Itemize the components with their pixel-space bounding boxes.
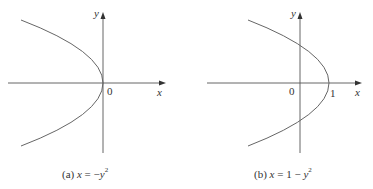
caption-a-exp: 2 [105, 166, 109, 174]
caption-b-exp: 2 [308, 166, 312, 174]
tick-label-one-b: 1 [330, 88, 336, 99]
x-axis-arrow-b [355, 81, 362, 86]
caption-a-prefix: (a) [62, 168, 74, 180]
figure-a [8, 12, 166, 153]
caption-b-mid: = 1 − [274, 168, 303, 180]
y-axis-label-b: y [291, 8, 296, 19]
x-axis-label-a: x [157, 87, 162, 98]
origin-label-b: 0 [289, 86, 295, 97]
y-axis-arrow-a [101, 12, 106, 19]
y-axis-label-a: y [94, 8, 99, 19]
x-axis-label-b: x [355, 87, 360, 98]
x-axis-arrow-a [159, 81, 166, 86]
figure-b [207, 12, 362, 153]
origin-label-a: 0 [107, 86, 113, 97]
caption-b-prefix: (b) [254, 168, 267, 180]
caption-a-mid: = − [82, 168, 100, 180]
caption-b: (b) x = 1 − y2 [254, 169, 312, 180]
caption-a: (a) x = −y2 [62, 169, 108, 180]
figure-canvas [0, 0, 373, 189]
y-axis-arrow-b [298, 12, 303, 19]
caption-a-var: y [100, 168, 105, 180]
